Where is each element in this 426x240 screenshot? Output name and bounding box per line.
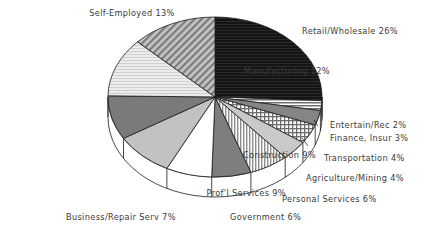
label-construction: Construction 9% (216, 150, 316, 160)
label-manufacturing: Manufacturing 12% (220, 66, 330, 76)
label-transportation: Transportation 4% (324, 153, 405, 163)
pie-chart-figure: Self-Employed 13% Retail/Wholesale 26% M… (0, 0, 426, 240)
label-agriculture-mining: Agriculture/Mining 4% (306, 173, 404, 183)
label-personal-services: Personal Services 6% (282, 194, 377, 204)
label-finance-insur: Finance, Insur 3% (330, 133, 409, 143)
label-profl-services: Prof'l Services 9% (176, 188, 286, 198)
label-government: Government 6% (230, 212, 301, 222)
label-entertain-rec: Entertain/Rec 2% (330, 120, 406, 130)
label-self-employed: Self-Employed 13% (52, 8, 212, 18)
label-business-repair-serv: Business/Repair Serv 7% (66, 212, 176, 222)
label-retail-wholesale: Retail/Wholesale 26% (302, 26, 398, 36)
